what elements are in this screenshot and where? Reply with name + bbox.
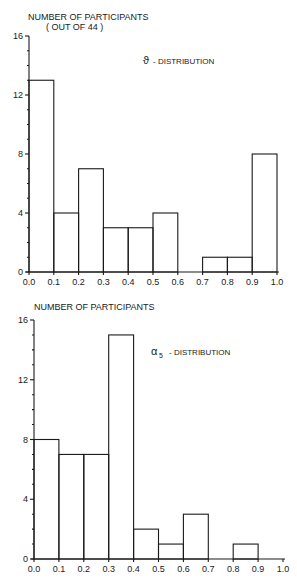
x-tick-label: 0.5	[152, 564, 165, 574]
histogram-bar	[59, 454, 84, 559]
y-tick-label: 4	[23, 494, 28, 504]
alpha5-distribution-histogram: NUMBER OF PARTICIPANTS α 5 - DISTRIBUTIO…	[0, 0, 297, 588]
histogram-bar	[233, 544, 258, 559]
legend-text: - DISTRIBUTION	[169, 348, 231, 357]
x-tick-label: 0.3	[102, 564, 115, 574]
histogram-bar	[84, 454, 109, 559]
y-axis-label: NUMBER OF PARTICIPANTS	[34, 302, 155, 312]
x-tick-label: 0.8	[227, 564, 240, 574]
histogram-bar	[134, 529, 159, 559]
y-tick-label: 16	[18, 315, 28, 325]
bars	[34, 335, 258, 559]
y-tick-label: 12	[18, 375, 28, 385]
histogram-bar	[159, 544, 184, 559]
x-tick-label: 1.0	[277, 564, 290, 574]
x-tick-label: 0.4	[127, 564, 140, 574]
alpha-symbol: α	[151, 345, 158, 357]
alpha-subscript: 5	[159, 352, 163, 359]
y-tick-label: 8	[23, 435, 28, 445]
x-tick-label: 0.2	[78, 564, 91, 574]
x-tick-label: 0.7	[202, 564, 215, 574]
histogram-bar	[34, 440, 59, 560]
x-tick-label: 0.6	[177, 564, 190, 574]
histogram-bar	[109, 335, 134, 559]
histogram-bar	[183, 514, 208, 559]
x-tick-label: 0.1	[53, 564, 66, 574]
x-tick-label: 0.9	[252, 564, 265, 574]
y-tick-label: 0	[23, 554, 28, 564]
x-tick-label: 0.0	[28, 564, 41, 574]
legend-label: α 5 - DISTRIBUTION	[151, 345, 231, 359]
axes	[30, 320, 285, 562]
